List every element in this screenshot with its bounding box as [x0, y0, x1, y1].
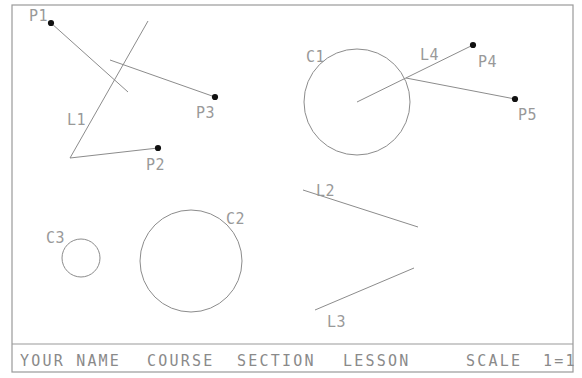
- point-node-p5[interactable]: [512, 96, 518, 102]
- label-p2: P2: [146, 156, 165, 174]
- label-l4: L4: [420, 46, 439, 64]
- line-l3[interactable]: [315, 268, 414, 310]
- geometry-labels-group: P1P2P3P4P5L1L4L2L3C1C2C3: [29, 7, 537, 331]
- label-l2: L2: [316, 182, 335, 200]
- label-l1: L1: [67, 111, 86, 129]
- line-lp5[interactable]: [406, 78, 515, 99]
- titleblock-course-field[interactable]: COURSE: [147, 352, 214, 370]
- cad-drawing-viewport: P1P2P3P4P5L1L4L2L3C1C2C3 YOUR NAMECOURSE…: [0, 0, 582, 378]
- line-lp2[interactable]: [70, 148, 158, 158]
- label-p5: P5: [518, 106, 537, 124]
- label-c1: C1: [306, 48, 325, 66]
- point-node-p3[interactable]: [212, 94, 218, 100]
- point-node-p4[interactable]: [470, 42, 476, 48]
- label-p1: P1: [29, 7, 48, 25]
- titleblock: YOUR NAMECOURSESECTIONLESSONSCALE1=1: [20, 352, 577, 370]
- circles-group: [62, 49, 410, 312]
- circle-c3[interactable]: [62, 239, 100, 277]
- titleblock-name-field[interactable]: YOUR NAME: [20, 352, 121, 370]
- titleblock-scale-value[interactable]: 1=1: [543, 352, 577, 370]
- titleblock-scale-field[interactable]: SCALE: [466, 352, 522, 370]
- drawing-canvas[interactable]: P1P2P3P4P5L1L4L2L3C1C2C3 YOUR NAMECOURSE…: [0, 0, 582, 378]
- label-p4: P4: [478, 53, 497, 71]
- line-l1[interactable]: [70, 21, 148, 158]
- line-l4[interactable]: [357, 45, 473, 102]
- line-lp1[interactable]: [51, 23, 128, 92]
- point-node-p2[interactable]: [155, 145, 161, 151]
- titleblock-lesson-field[interactable]: LESSON: [343, 352, 410, 370]
- titleblock-section-field[interactable]: SECTION: [237, 352, 316, 370]
- label-p3: P3: [196, 104, 215, 122]
- lines-group: [51, 21, 515, 310]
- point-node-p1[interactable]: [48, 20, 54, 26]
- line-lp3[interactable]: [110, 60, 215, 97]
- label-c3: C3: [46, 229, 65, 247]
- label-l3: L3: [327, 313, 346, 331]
- label-c2: C2: [226, 210, 245, 228]
